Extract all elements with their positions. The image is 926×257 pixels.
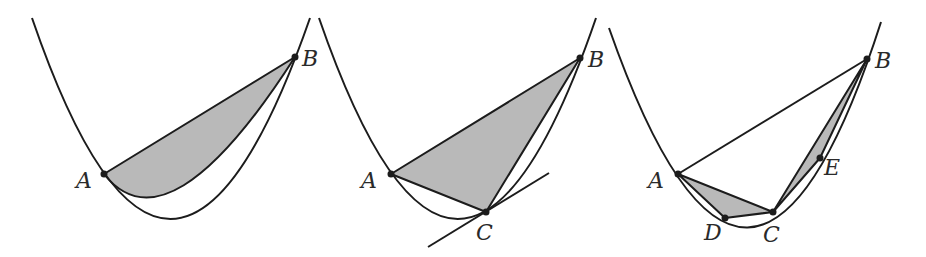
label-a: A [359, 168, 377, 193]
parabola-curve [609, 22, 881, 228]
parabola-figure: A B A B C A B C D E [0, 0, 926, 257]
point-c [770, 209, 777, 216]
parabolic-segment-ab [104, 57, 295, 198]
point-a [675, 171, 682, 178]
label-e: E [823, 155, 840, 180]
label-c: C [476, 220, 493, 245]
label-b: B [587, 47, 604, 72]
label-b: B [301, 46, 318, 71]
point-e [817, 155, 824, 162]
triangle-ceb [773, 59, 867, 212]
label-b: B [874, 48, 891, 73]
point-d [722, 215, 729, 222]
panel-3: A B C D E [609, 22, 891, 247]
point-a [101, 171, 108, 178]
label-a: A [646, 168, 664, 193]
point-a [388, 171, 395, 178]
point-b [577, 55, 584, 62]
point-b [292, 54, 299, 61]
label-c: C [763, 222, 780, 247]
panel-1: A B [32, 18, 318, 219]
label-a: A [74, 168, 92, 193]
panel-2: A B C [319, 18, 604, 247]
point-c [483, 209, 490, 216]
triangle-abc [391, 58, 580, 212]
point-b [864, 56, 871, 63]
label-d: D [703, 220, 722, 245]
